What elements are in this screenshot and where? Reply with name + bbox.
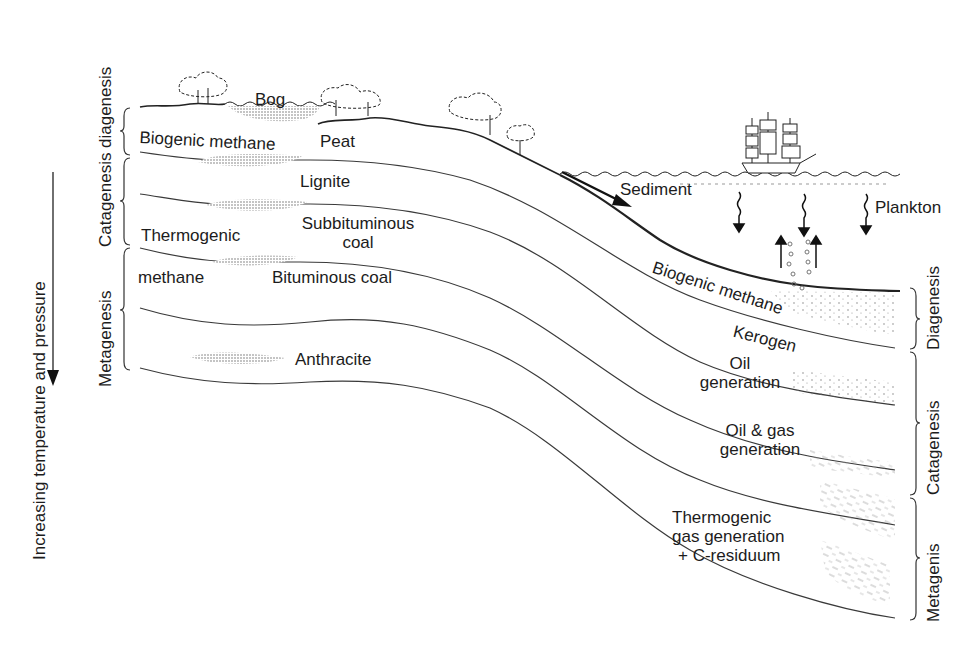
anthracite-seam [190, 353, 285, 364]
label-bog: Bog [255, 90, 285, 109]
label-subbituminous-coal: Subbituminous coal [288, 214, 428, 252]
tree-icon [179, 72, 227, 104]
label-anthracite: Anthracite [295, 350, 372, 369]
left-stage-brackets [120, 108, 130, 370]
right-stage-diagenesis: Diagenesis [924, 266, 943, 350]
label-thermogenic: Thermogenic [141, 226, 240, 245]
subbituminous-seam [206, 199, 307, 210]
label-oil-generation: Oil generation [690, 354, 790, 392]
methane-bubbles [787, 240, 811, 290]
ship-icon [742, 112, 816, 173]
tree-icon [321, 85, 380, 116]
right-stage-brackets [910, 288, 920, 620]
bituminous-seam [212, 256, 298, 266]
left-stage-metagenesis: Metagenesis [96, 291, 115, 387]
left-stage-catagenesis: Catagenesis [96, 152, 115, 247]
label-sediment: Sediment [620, 180, 692, 199]
right-stage-metagenesis: Metagenis [924, 544, 943, 622]
methane-rising-arrows [776, 236, 821, 268]
label-plankton: Plankton [875, 198, 941, 217]
label-methane: methane [138, 268, 204, 287]
label-peat: Peat [320, 132, 355, 151]
label-bituminous-coal: Bituminous coal [272, 268, 392, 287]
label-thermogenic-gas-generation: Thermogenic gas generation + C-residuum [672, 508, 784, 565]
coal-seams [190, 154, 307, 364]
plankton-sinking-arrows [734, 192, 871, 236]
axis-label: Increasing temperature and pressure [30, 281, 49, 560]
geologic-cross-section [0, 0, 972, 648]
right-stage-catagenesis: Catagenesis [924, 400, 943, 495]
sea-surface [560, 172, 900, 184]
lignite-seam [198, 154, 302, 166]
label-lignite: Lignite [300, 172, 350, 191]
label-oil-gas-generation: Oil & gas generation [705, 421, 815, 459]
left-stage-diagenesis: diagenesis [96, 67, 115, 148]
